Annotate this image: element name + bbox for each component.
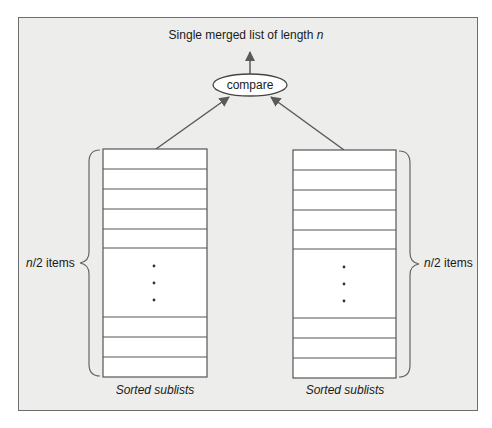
arrow-left-to-compare [156,97,229,149]
arrow-right-to-compare [271,97,344,150]
right-brace [399,151,419,377]
title-variable: n [317,28,324,42]
left-count-variable: n [26,256,33,270]
left-sorted-sublist [103,149,207,377]
right-count-variable: n [424,256,431,270]
left-item-count: n/2 items [26,256,75,270]
title-text: Single merged list of length [169,28,317,42]
left-sublist-caption: Sorted sublists [103,383,207,397]
compare-label: compare [213,78,287,92]
merged-list-title: Single merged list of length n [0,28,492,42]
right-count-text: /2 items [431,256,473,270]
right-item-count: n/2 items [424,256,473,270]
merge-diagram [0,0,492,428]
right-sublist-caption: Sorted sublists [293,383,397,397]
left-count-text: /2 items [33,256,75,270]
left-brace [80,150,100,376]
right-sorted-sublist [293,150,396,378]
